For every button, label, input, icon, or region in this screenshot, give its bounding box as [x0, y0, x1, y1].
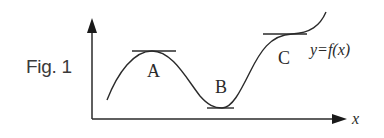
y-axis-arrow-icon: [87, 18, 97, 33]
x-axis-label: x: [351, 110, 359, 127]
point-label-b: B: [215, 77, 227, 97]
point-label-a: A: [147, 61, 160, 81]
x-axis: [92, 114, 347, 124]
function-label: y=f(x): [308, 41, 350, 59]
function-graph: A B C y=f(x) x: [0, 0, 384, 138]
x-axis-arrow-icon: [332, 114, 347, 124]
point-label-c: C: [278, 48, 290, 68]
y-axis: [87, 18, 97, 119]
